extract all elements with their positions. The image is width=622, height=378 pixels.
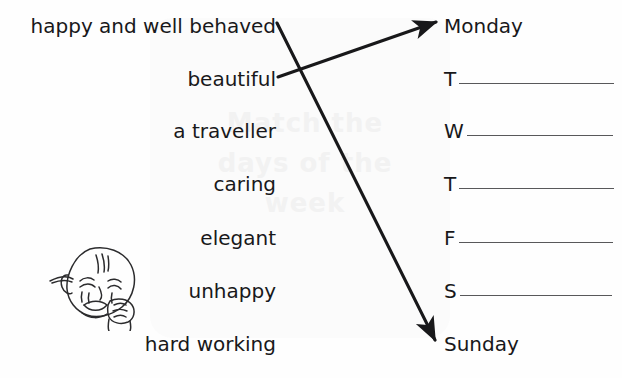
day-initial-friday: F <box>444 226 456 250</box>
day-label-monday: Monday <box>444 14 523 38</box>
day-row-tuesday[interactable]: T <box>444 67 614 91</box>
day-initial-wednesday: W <box>444 119 464 143</box>
answer-blank-saturday[interactable] <box>460 295 612 296</box>
day-initial-saturday: S <box>444 279 457 303</box>
day-row-thursday[interactable]: T <box>444 172 614 196</box>
description-item-3[interactable]: caring <box>214 172 276 196</box>
day-initial-thursday: T <box>444 172 456 196</box>
worksheet-page: Match the days of the week happy and wel… <box>0 0 622 378</box>
description-item-1[interactable]: beautiful <box>187 67 276 91</box>
day-row-saturday[interactable]: S <box>444 279 612 303</box>
day-row-monday[interactable]: Monday <box>444 14 523 38</box>
description-item-6[interactable]: hard working <box>145 332 276 356</box>
answer-blank-friday[interactable] <box>459 242 613 243</box>
day-label-sunday: Sunday <box>444 332 519 356</box>
day-row-wednesday[interactable]: W <box>444 119 613 143</box>
answer-blank-thursday[interactable] <box>459 188 614 189</box>
watermark-line-2: days of the <box>160 148 450 178</box>
watermark-line-3: week <box>160 188 450 218</box>
description-item-2[interactable]: a traveller <box>173 119 276 143</box>
day-row-sunday[interactable]: Sunday <box>444 332 519 356</box>
description-item-4[interactable]: elegant <box>200 226 276 250</box>
day-row-friday[interactable]: F <box>444 226 613 250</box>
description-item-0[interactable]: happy and well behaved <box>31 14 276 38</box>
description-item-5[interactable]: unhappy <box>188 279 276 303</box>
sad-child-face-icon <box>46 243 148 331</box>
day-initial-tuesday: T <box>444 67 456 91</box>
answer-blank-wednesday[interactable] <box>467 135 613 136</box>
answer-blank-tuesday[interactable] <box>459 83 614 84</box>
arrow-beautiful-to-monday[interactable] <box>278 22 436 77</box>
arrow-happy-to-sunday[interactable] <box>277 23 435 340</box>
